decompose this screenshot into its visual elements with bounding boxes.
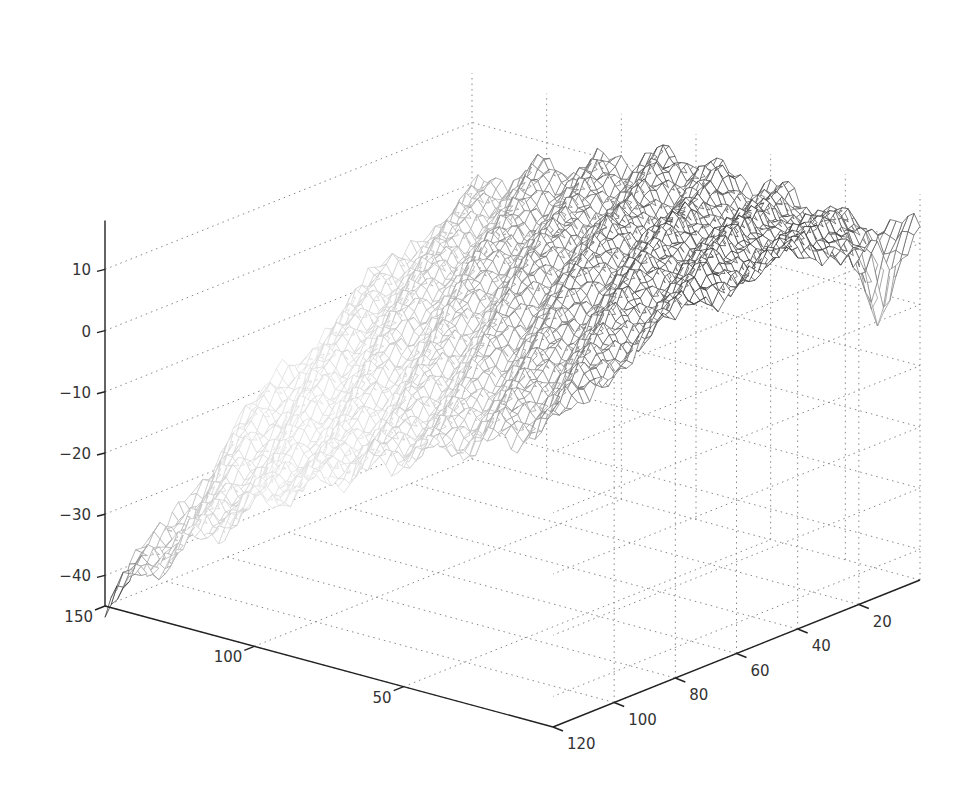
y-tick [859, 605, 869, 609]
x-tick-label: 100 [214, 648, 243, 666]
x-tick-label: 150 [64, 608, 93, 626]
z-tick-label: 10 [72, 261, 91, 279]
z-tick [97, 575, 105, 577]
z-tick [97, 331, 105, 333]
z-tick [97, 392, 105, 394]
y-tick-label: 20 [873, 613, 892, 631]
y-tick-label: 120 [567, 735, 596, 753]
z-tick [97, 514, 105, 516]
z-tick-label: −10 [59, 384, 91, 402]
y-tick [675, 678, 685, 682]
y-tick [614, 703, 624, 707]
x-tick [244, 646, 254, 650]
z-tick-label: −20 [59, 445, 91, 463]
z-tick [97, 453, 105, 455]
floor-gridline [227, 557, 675, 678]
y-tick [737, 654, 747, 658]
floor-gridline [411, 484, 859, 605]
surface-plot: −40−30−20−100105010015020406080100120 [0, 0, 974, 797]
x-tick [95, 606, 105, 610]
z-tick [97, 269, 105, 271]
y-tick [553, 727, 563, 731]
z-tick-label: −40 [59, 567, 91, 585]
z-tick-label: −30 [59, 506, 91, 524]
x-tick [394, 687, 404, 691]
floor-gridline [350, 508, 798, 629]
y-tick-label: 60 [751, 662, 770, 680]
y-tick-label: 100 [628, 711, 657, 729]
floor-gridline [289, 533, 737, 654]
z-tick-label: 0 [81, 323, 91, 341]
x-tick-label: 50 [373, 689, 392, 707]
y-tick-label: 40 [812, 637, 831, 655]
floor-gridline [166, 582, 614, 703]
floor-gridline [472, 459, 920, 580]
x-axis [105, 606, 553, 727]
y-tick [798, 629, 808, 633]
y-tick-label: 80 [689, 686, 708, 704]
